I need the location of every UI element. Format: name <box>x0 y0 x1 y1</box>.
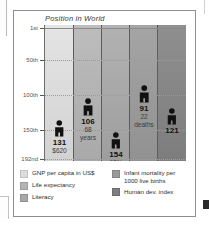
data-marker-human-dev-index: 121 <box>165 108 178 135</box>
legend-item-gnp-per-capita: GNP per capita in US$ <box>20 169 112 178</box>
legend-column-left: GNP per capita in US$ Life expectancy Li… <box>20 169 112 205</box>
data-marker-life-expectancy: 106 68 years <box>80 98 96 141</box>
gridline-1st <box>45 28 186 29</box>
data-label-value: 154 <box>109 150 122 159</box>
person-icon <box>110 132 121 149</box>
legend-item-infant-mortality: Infant mortality per 1000 live births <box>112 169 196 184</box>
y-axis-label-192nd: 192nd <box>21 156 38 162</box>
page-edge-top-right <box>204 0 209 14</box>
data-label-sub1: 62% <box>109 159 122 161</box>
data-label-value: 106 <box>80 117 96 126</box>
legend-swatch-icon <box>112 170 120 178</box>
data-label-sub1: $620 <box>52 147 66 155</box>
person-icon <box>82 98 94 116</box>
legend-swatch-icon <box>20 170 28 178</box>
legend-label: Human dev. index <box>124 188 173 196</box>
chart-figure-card: Position in World 1st 50th 100th 150th 1… <box>13 10 196 217</box>
legend-label-line1: Infant mortality per <box>124 169 175 176</box>
data-marker-gnp-per-capita: 131 $620 <box>52 120 66 155</box>
legend-label: GNP per capita in US$ <box>32 169 94 177</box>
chart-legend: GNP per capita in US$ Life expectancy Li… <box>16 169 195 215</box>
data-marker-infant-mortality: 91 22 deaths <box>134 85 154 128</box>
plot-area: 131 $620 106 68 years 154 <box>44 25 186 161</box>
page-edge-bottom-left <box>0 196 9 219</box>
legend-item-literacy: Literacy <box>20 193 112 202</box>
gridline-100th <box>45 95 186 96</box>
data-label-value: 121 <box>165 126 178 135</box>
data-label-value: 131 <box>52 138 66 147</box>
person-icon <box>138 85 150 103</box>
y-axis-label-50th: 50th <box>26 57 38 63</box>
band-human-dev-index <box>158 25 186 161</box>
gridline-50th <box>45 60 186 61</box>
legend-swatch-icon <box>20 194 28 202</box>
legend-item-human-dev-index: Human dev. index <box>112 188 196 197</box>
legend-column-right: Infant mortality per 1000 live births Hu… <box>112 169 196 200</box>
legend-item-life-expectancy: Life expectancy <box>20 181 112 190</box>
legend-swatch-icon <box>112 188 120 196</box>
page-edge-right-mark <box>203 200 209 209</box>
data-label-value: 91 <box>134 104 154 113</box>
page-edge-top-left <box>0 0 7 36</box>
chart-title: Position in World <box>45 14 105 23</box>
legend-label-line2: 1000 live births <box>124 177 166 184</box>
data-label-sub2: deaths <box>134 121 154 129</box>
data-label-sub1: 68 <box>80 126 96 134</box>
data-marker-literacy: 154 62% <box>109 132 122 161</box>
legend-label: Literacy <box>32 193 54 201</box>
legend-swatch-icon <box>20 182 28 190</box>
legend-label-wrap: Infant mortality per 1000 live births <box>124 169 175 184</box>
y-axis-label-1st: 1st <box>30 25 38 31</box>
person-icon <box>54 120 65 137</box>
legend-label: Life expectancy <box>32 181 75 189</box>
y-axis-label-150th: 150th <box>23 127 38 133</box>
page-root: Position in World 1st 50th 100th 150th 1… <box>0 0 209 230</box>
data-label-sub1: 22 <box>134 113 154 121</box>
y-axis-label-100th: 100th <box>23 92 38 98</box>
data-label-sub2: years <box>80 134 96 142</box>
person-icon <box>166 108 177 125</box>
